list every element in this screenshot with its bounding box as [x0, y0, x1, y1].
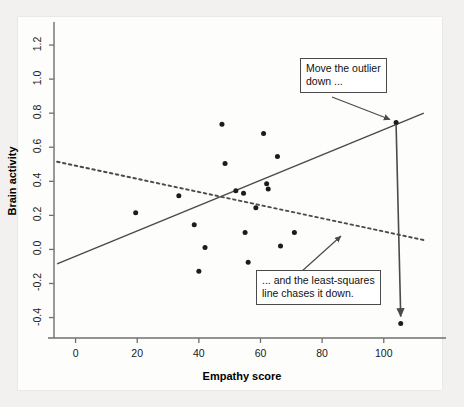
data-point	[264, 181, 269, 186]
data-point	[223, 161, 228, 166]
x-tick-label: 100	[364, 347, 404, 359]
x-tick-label: 20	[117, 347, 157, 359]
callout-move-outlier: Move the outlier down ...	[300, 58, 387, 93]
solid-regression-line	[57, 113, 424, 264]
data-point	[243, 230, 248, 235]
y-axis-title: Brain activity	[6, 121, 18, 241]
x-axis-title: Empathy score	[142, 370, 342, 382]
callout-top-line2: down ...	[306, 75, 381, 88]
top-callout-leader	[332, 97, 390, 120]
y-tick-label: -0.4	[31, 300, 43, 334]
y-tick-label: 0.4	[31, 163, 43, 197]
y-tick-label: 1.2	[31, 27, 43, 61]
y-tick-label: -0.2	[31, 265, 43, 299]
data-point	[278, 244, 283, 249]
data-point	[275, 154, 280, 159]
data-point	[253, 205, 258, 210]
y-tick-label: 1.0	[31, 61, 43, 95]
data-point	[292, 230, 297, 235]
data-point	[219, 122, 224, 127]
callout-bottom-line2: line chases it down.	[262, 287, 375, 300]
data-point	[203, 245, 208, 250]
callout-top-line1: Move the outlier	[306, 62, 381, 75]
callout-least-squares: ... and the least-squares line chases it…	[256, 270, 381, 305]
data-point	[261, 131, 266, 136]
data-point	[246, 260, 251, 265]
y-tick-label: 0.8	[31, 95, 43, 129]
callout-bottom-line1: ... and the least-squares	[262, 274, 375, 287]
x-tick-label: 60	[240, 347, 280, 359]
outlier-move-arrow	[396, 125, 401, 317]
x-tick-label: 0	[56, 347, 96, 359]
data-point	[196, 269, 201, 274]
data-point	[176, 193, 181, 198]
bottom-callout-leader	[301, 236, 341, 272]
data-point	[398, 321, 403, 326]
figure-container: -0.4-0.20.00.20.40.60.81.01.202040608010…	[0, 0, 464, 407]
data-point	[133, 210, 138, 215]
dotted-regression-line	[57, 162, 424, 240]
data-point	[233, 188, 238, 193]
scatter-plot-svg	[0, 0, 464, 407]
y-tick-label: 0.0	[31, 231, 43, 265]
regression-lines	[57, 113, 424, 264]
y-tick-label: 0.2	[31, 197, 43, 231]
data-point	[241, 191, 246, 196]
data-point	[192, 222, 197, 227]
x-tick-label: 40	[179, 347, 219, 359]
data-point	[394, 120, 399, 125]
x-tick-label: 80	[302, 347, 342, 359]
data-point	[266, 186, 271, 191]
y-tick-label: 0.6	[31, 129, 43, 163]
